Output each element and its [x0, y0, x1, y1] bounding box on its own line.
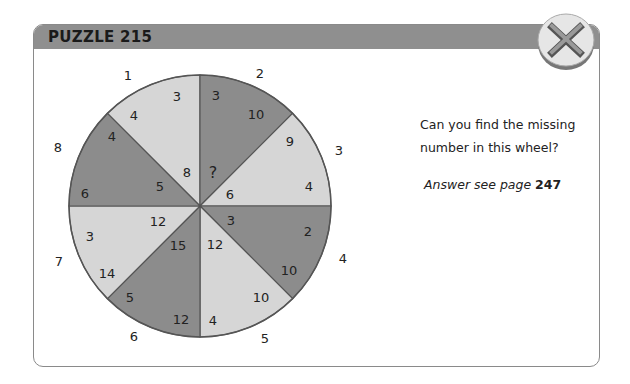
seg1-value-3: 8: [183, 165, 191, 180]
seg3-value-1: 9: [286, 134, 294, 149]
seg5-value-3: 12: [207, 237, 224, 252]
seg2-missing-value: ?: [209, 163, 218, 182]
seg7-value-2: 14: [99, 266, 116, 281]
outer-label-4: 4: [339, 251, 347, 266]
seg8-value-1: 4: [108, 129, 116, 144]
seg6-value-2: 5: [126, 290, 134, 305]
seg8-value-3: 5: [156, 179, 164, 194]
outer-label-3: 3: [335, 143, 343, 158]
seg5-value-2: 4: [209, 313, 217, 328]
seg1-value-1: 3: [173, 89, 181, 104]
close-button[interactable]: [535, 10, 597, 72]
seg4-value-3: 3: [227, 213, 235, 228]
seg2-value-1: 3: [212, 88, 220, 103]
question-line-2: number in this wheel?: [420, 136, 600, 159]
seg3-value-2: 4: [305, 179, 313, 194]
seg4-value-2: 10: [281, 263, 298, 278]
seg6-value-3: 15: [170, 238, 187, 253]
seg7-value-3: 12: [150, 214, 167, 229]
puzzle-question: Can you find the missing number in this …: [420, 113, 600, 159]
answer-page: 247: [535, 177, 561, 192]
outer-label-5: 5: [261, 331, 269, 346]
seg4-value-1: 2: [304, 224, 312, 239]
answer-reference: Answer see page 247: [424, 177, 561, 192]
seg2-value-2: 10: [248, 107, 265, 122]
outer-label-6: 6: [130, 329, 138, 344]
seg7-value-1: 3: [86, 229, 94, 244]
seg3-value-3: 6: [226, 187, 234, 202]
outer-label-8: 8: [54, 140, 62, 155]
seg1-value-2: 4: [130, 108, 138, 123]
outer-label-7: 7: [55, 254, 63, 269]
seg8-value-2: 6: [81, 186, 89, 201]
question-line-1: Can you find the missing: [420, 113, 600, 136]
close-x-icon: [535, 10, 597, 72]
outer-label-1: 1: [124, 68, 132, 83]
seg5-value-1: 10: [253, 290, 270, 305]
seg6-value-1: 12: [173, 312, 190, 327]
outer-label-2: 2: [256, 66, 264, 81]
answer-prefix: Answer see page: [424, 177, 531, 192]
